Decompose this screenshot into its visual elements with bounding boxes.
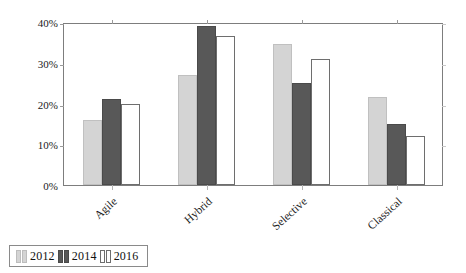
legend-swatch-group [100,250,112,263]
x-axis-tick-mark-top [112,20,113,24]
plot-area [63,23,443,186]
y-axis-tick-label: 30% [28,58,58,70]
y-axis-tick-mark-right [442,24,446,25]
legend-entry-2012[interactable]: 2012 [16,249,55,264]
y-axis-tick-mark [60,106,64,107]
y-axis-tick-mark-right [442,106,446,107]
x-axis-tick-label-selective: Selective [254,195,308,245]
bar-agile-2014 [102,99,121,185]
legend-swatch-group [16,250,28,263]
y-axis-tick-labels: 0%10%20%30%40% [28,0,58,273]
y-axis-tick-mark [60,146,64,147]
y-axis-tick-mark-right [442,146,446,147]
bar-hybrid-2016 [216,36,235,185]
legend-swatch-group [58,250,70,263]
legend-label-2012: 2012 [30,249,55,264]
legend-swatch-2012 [16,250,21,263]
bar-agile-2016 [121,104,140,186]
x-axis-tick-mark-top [207,20,208,24]
bar-classical-2012 [368,97,387,185]
y-axis-tick-mark [60,24,64,25]
legend-entry-2014[interactable]: 2014 [58,249,97,264]
chart-legend: 201220142016 [9,245,148,267]
y-axis-tick-label: 20% [28,99,58,111]
x-axis-tick-mark [112,185,113,190]
bar-selective-2014 [292,83,311,185]
x-axis-tick-label-agile: Agile [64,195,118,245]
legend-label-2016: 2016 [114,249,139,264]
legend-label-2014: 2014 [72,249,97,264]
x-axis-tick-mark [207,185,208,190]
legend-swatch-2016 [106,250,111,263]
y-axis-tick-mark [60,65,64,66]
x-axis-tick-mark-top [302,20,303,24]
x-axis-tick-label-classical: Classical [349,195,403,245]
y-axis-tick-label: 0% [28,180,58,192]
legend-swatch-2016 [100,250,105,263]
y-axis-tick-label: 10% [28,139,58,151]
legend-swatch-2014 [64,250,69,263]
legend-swatch-2014 [58,250,63,263]
bar-chart-figure: Process model used 0%10%20%30%40% AgileH… [0,0,466,273]
x-axis-tick-mark [397,185,398,190]
bar-hybrid-2014 [197,26,216,185]
y-axis-tick-label: 40% [28,17,58,29]
legend-swatch-2012 [22,250,27,263]
y-axis-tick-mark-right [442,65,446,66]
x-axis-tick-mark-top [397,20,398,24]
legend-entry-2016[interactable]: 2016 [100,249,139,264]
x-axis-tick-mark [302,185,303,190]
bar-hybrid-2012 [178,75,197,185]
bar-selective-2012 [273,44,292,185]
bar-classical-2014 [387,124,406,185]
bar-agile-2012 [83,120,102,185]
x-axis-tick-label-hybrid: Hybrid [159,195,213,245]
bar-selective-2016 [311,59,330,185]
bar-classical-2016 [406,136,425,185]
